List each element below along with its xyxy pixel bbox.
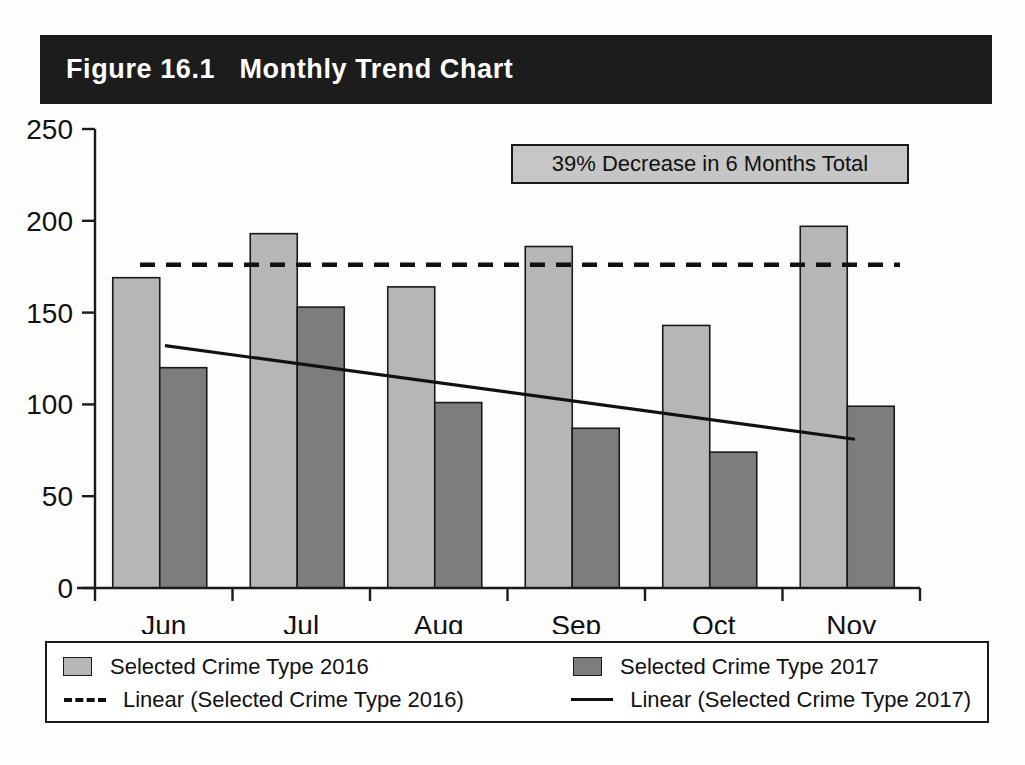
chart-legend: Selected Crime Type 2016 Selected Crime … (45, 641, 989, 723)
annotation-callout: 39% Decrease in 6 Months Total (511, 144, 909, 184)
bar-jul-2017 (297, 307, 344, 588)
x-tick-label-jun: Jun (141, 610, 186, 634)
legend-item-series-2016: Selected Crime Type 2016 (63, 654, 573, 680)
bar-jun-2016 (113, 278, 160, 588)
bar-jul-2016 (250, 234, 297, 588)
light-swatch-icon (63, 657, 92, 676)
bar-nov-2017 (847, 406, 894, 588)
x-tick-label-jul: Jul (283, 610, 319, 634)
dark-swatch-icon (573, 657, 602, 676)
y-tick-label-150: 150 (26, 298, 73, 329)
figure-container: Figure 16.1 Monthly Trend Chart 05010015… (0, 0, 1025, 765)
x-tick-label-sep: Sep (551, 610, 601, 634)
y-tick-label-100: 100 (26, 389, 73, 420)
legend-row-trendlines: Linear (Selected Crime Type 2016) Linear… (63, 683, 971, 716)
y-tick-label-250: 250 (26, 114, 73, 145)
page-title: Figure 16.1 Monthly Trend Chart (66, 54, 513, 85)
bar-sep-2017 (572, 428, 619, 588)
bar-aug-2016 (388, 287, 435, 588)
legend-item-trend-2017: Linear (Selected Crime Type 2017) (570, 687, 971, 713)
bar-oct-2017 (710, 452, 757, 588)
x-tick-label-oct: Oct (692, 610, 736, 634)
y-tick-label-0: 0 (57, 573, 73, 604)
solid-line-icon (570, 690, 614, 709)
y-tick-label-50: 50 (42, 481, 73, 512)
legend-item-series-2017: Selected Crime Type 2017 (573, 654, 971, 680)
legend-row-swatches: Selected Crime Type 2016 Selected Crime … (63, 650, 971, 683)
dashed-line-icon (63, 690, 107, 709)
legend-item-trend-2016: Linear (Selected Crime Type 2016) (63, 687, 570, 713)
bar-oct-2016 (663, 325, 710, 588)
bar-jun-2017 (160, 368, 207, 588)
annotation-text: 39% Decrease in 6 Months Total (552, 151, 868, 177)
bar-sep-2016 (525, 247, 572, 588)
x-tick-label-aug: Aug (414, 610, 464, 634)
legend-label-series-2016: Selected Crime Type 2016 (110, 654, 369, 680)
figure-title-bar: Figure 16.1 Monthly Trend Chart (40, 35, 992, 104)
bar-aug-2017 (435, 403, 482, 588)
legend-label-trend-2016: Linear (Selected Crime Type 2016) (123, 687, 464, 713)
legend-label-trend-2017: Linear (Selected Crime Type 2017) (630, 687, 971, 713)
bar-nov-2016 (800, 226, 847, 588)
legend-label-series-2017: Selected Crime Type 2017 (620, 654, 879, 680)
x-tick-label-nov: Nov (826, 610, 876, 634)
y-tick-label-200: 200 (26, 206, 73, 237)
